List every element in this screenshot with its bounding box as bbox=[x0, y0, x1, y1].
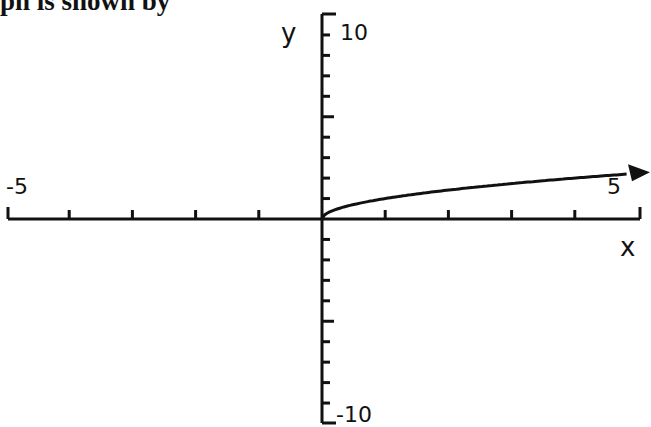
function-curve bbox=[322, 174, 627, 219]
x-max-label: 5 bbox=[607, 174, 621, 199]
x-min-label: -5 bbox=[6, 174, 28, 199]
x-axis-label: x bbox=[620, 232, 635, 262]
graph: y x 10 -10 -5 5 bbox=[0, 0, 651, 427]
y-min-label: -10 bbox=[336, 402, 372, 427]
arrowhead-icon bbox=[628, 164, 650, 181]
y-axis-label: y bbox=[281, 18, 296, 48]
y-max-label: 10 bbox=[340, 20, 368, 45]
